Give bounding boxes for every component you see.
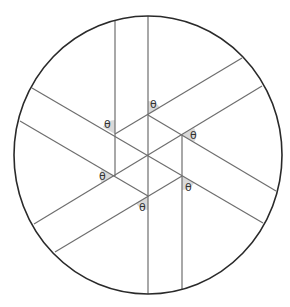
angle-label-upper-right: θ bbox=[190, 129, 197, 142]
angle-label-lower-right: θ bbox=[185, 181, 192, 194]
rising-line-lower bbox=[55, 176, 182, 252]
falling-line-lower bbox=[20, 121, 148, 196]
angle-label-lower-left: θ bbox=[99, 170, 106, 183]
rising-line-upper bbox=[115, 58, 242, 134]
angle-label-upper-left: θ bbox=[104, 118, 111, 131]
angle-label-bottom: θ bbox=[139, 201, 146, 214]
angle-label-top: θ bbox=[150, 98, 157, 111]
strip-figure: θ θ θ θ θ θ bbox=[0, 0, 290, 307]
falling-line-upper bbox=[148, 115, 276, 191]
